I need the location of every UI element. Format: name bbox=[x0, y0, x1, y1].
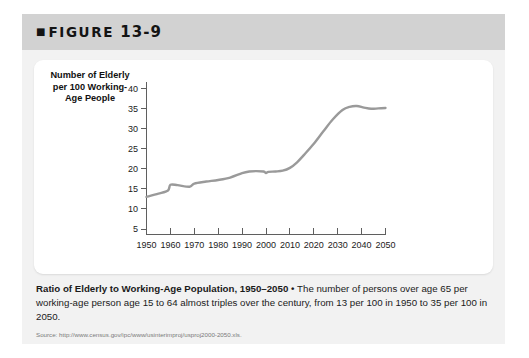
caption-lead: Ratio of Elderly to Working-Age Populati… bbox=[36, 283, 288, 294]
y-tick-label: 35 bbox=[128, 104, 138, 114]
figure-header-band: ■FIGURE 13-9 bbox=[22, 14, 505, 50]
x-tick-label: 1990 bbox=[232, 240, 252, 250]
y-tick-label: 30 bbox=[128, 124, 138, 134]
y-axis-tick-labels: 40 35 30 25 20 15 10 5 bbox=[128, 84, 138, 235]
caption-separator: • bbox=[288, 283, 297, 294]
x-tick-label: 1970 bbox=[184, 240, 204, 250]
figure-screenshot: ■FIGURE 13-9 Number of Elderly per 100 W… bbox=[0, 0, 529, 358]
x-tick-label: 2010 bbox=[280, 240, 300, 250]
x-tick-label: 2030 bbox=[328, 240, 348, 250]
x-axis-tick-labels: 1950 1960 1970 1980 1990 2000 2010 2020 … bbox=[136, 240, 395, 250]
x-tick-label: 2020 bbox=[304, 240, 324, 250]
y-tick-label: 40 bbox=[128, 84, 138, 94]
line-chart: 40 35 30 25 20 15 10 5 bbox=[34, 60, 493, 274]
y-tick-label: 25 bbox=[128, 144, 138, 154]
y-tick-label: 20 bbox=[128, 164, 138, 174]
x-tick-label: 2000 bbox=[256, 240, 276, 250]
x-tick-label: 2040 bbox=[352, 240, 372, 250]
x-axis bbox=[147, 228, 387, 235]
figure-label: FIGURE bbox=[48, 24, 114, 40]
data-line-series bbox=[147, 106, 386, 197]
figure-caption: Ratio of Elderly to Working-Age Populati… bbox=[36, 282, 491, 325]
figure-card: ■FIGURE 13-9 Number of Elderly per 100 W… bbox=[22, 14, 505, 344]
y-axis bbox=[141, 82, 147, 235]
y-tick-label: 15 bbox=[128, 184, 138, 194]
y-tick-label: 10 bbox=[128, 204, 138, 214]
x-tick-label: 2050 bbox=[375, 240, 395, 250]
x-tick-label: 1980 bbox=[208, 240, 228, 250]
y-tick-label: 5 bbox=[133, 224, 138, 234]
chart-panel: Number of Elderly per 100 Working-Age Pe… bbox=[34, 60, 493, 274]
x-tick-label: 1950 bbox=[136, 240, 156, 250]
figure-number: 13-9 bbox=[120, 23, 162, 41]
x-tick-label: 1960 bbox=[160, 240, 180, 250]
figure-source: Source: http://www.census.gov/ipc/www/us… bbox=[36, 330, 491, 339]
figure-title: ■FIGURE 13-9 bbox=[36, 23, 162, 41]
square-bullet-icon: ■ bbox=[36, 26, 48, 37]
